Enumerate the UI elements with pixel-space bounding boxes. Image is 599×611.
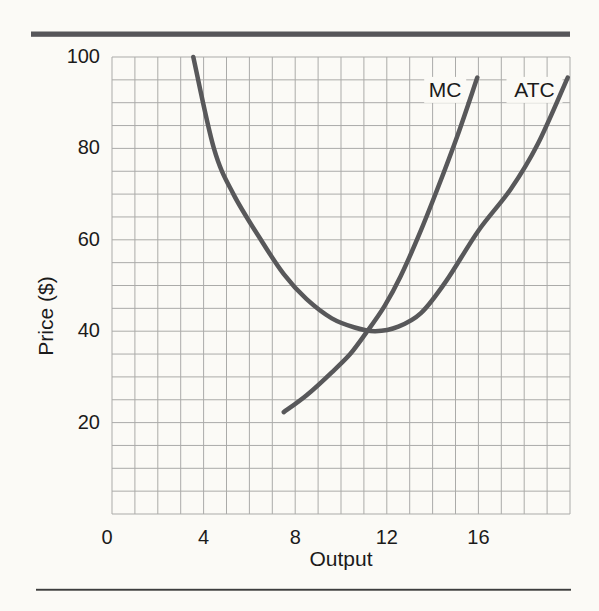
cost-curves-figure: MC ATC 20406080100 0481216 Price ($) Out… [0, 0, 599, 611]
grid [112, 57, 570, 514]
bottom-rule [36, 589, 571, 591]
y-tick-label: 80 [78, 136, 100, 158]
page: { "figure": { "background": "#fbfaf6", "… [0, 0, 599, 611]
x-tick-label: 12 [376, 526, 398, 548]
y-tick-label: 40 [78, 319, 100, 341]
atc-curve-label: ATC [514, 78, 554, 101]
y-axis-label: Price ($) [34, 276, 57, 355]
y-tick-label: 20 [78, 411, 100, 433]
y-tick-label: 100 [67, 45, 100, 67]
x-tick-label: 0 [101, 526, 112, 548]
mc-curve-label: MC [429, 78, 462, 101]
y-tick-label: 60 [78, 228, 100, 250]
x-tick-label: 16 [467, 526, 489, 548]
cost-curves-chart: MC ATC 20406080100 0481216 Price ($) Out… [0, 0, 599, 611]
x-axis-label: Output [309, 547, 372, 570]
x-tick-label: 4 [198, 526, 209, 548]
x-tick-label: 8 [290, 526, 301, 548]
top-rule [31, 32, 570, 37]
